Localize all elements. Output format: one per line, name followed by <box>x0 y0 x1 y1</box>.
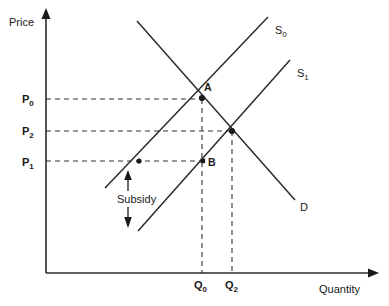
point-label-a: A <box>204 81 212 93</box>
y-tick-label-p0: P0 <box>22 93 34 108</box>
subsidy-arrow-down-icon <box>124 217 132 228</box>
point-markers-group <box>136 95 235 164</box>
y-axis-arrow-icon <box>42 8 51 19</box>
subsidy-annotation-group: Subsidy <box>117 170 157 228</box>
point-marker-equilibrium-2 <box>229 128 235 134</box>
supply-demand-subsidy-diagram: Price Quantity S0 S1 D A B <box>0 0 389 306</box>
curve-label-s1: S1 <box>297 67 309 82</box>
axes-group <box>42 8 380 278</box>
y-tick-label-p2: P2 <box>22 125 34 140</box>
y-axis-title: Price <box>9 16 34 28</box>
point-marker-b <box>201 159 206 164</box>
demand-curve-d <box>137 21 295 200</box>
point-label-b: B <box>208 156 216 168</box>
curve-label-s0: S0 <box>275 24 287 39</box>
subsidy-annotation-label: Subsidy <box>117 193 157 205</box>
y-tick-label-p1: P1 <box>22 156 34 171</box>
supply-curve-s0 <box>105 17 268 188</box>
guide-lines-group <box>46 99 233 273</box>
x-axis-title: Quantity <box>319 283 360 295</box>
x-tick-label-q0: Q0 <box>194 279 208 294</box>
point-marker-a <box>199 95 205 101</box>
point-marker-s0-at-p1 <box>136 158 141 163</box>
x-tick-label-q2: Q2 <box>225 279 239 294</box>
curve-label-d: D <box>300 201 308 213</box>
x-axis-arrow-icon <box>368 269 379 278</box>
diagram-canvas: Price Quantity S0 S1 D A B <box>0 0 389 306</box>
subsidy-arrow-up-icon <box>124 170 132 180</box>
supply-curve-s1 <box>138 60 290 231</box>
